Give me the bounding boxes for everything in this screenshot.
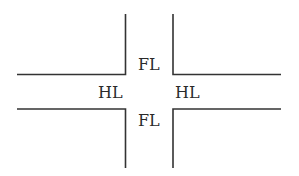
- top-right-curb: [173, 14, 281, 75]
- bottom-right-curb: [173, 109, 281, 168]
- intersection-diagram: FL HL HL FL: [0, 0, 299, 176]
- label-hl-right: HL: [175, 83, 200, 102]
- top-left-curb: [17, 14, 126, 75]
- label-fl-bottom: FL: [138, 111, 160, 130]
- label-fl-top: FL: [138, 55, 160, 74]
- label-hl-left: HL: [98, 83, 123, 102]
- bottom-left-curb: [17, 109, 126, 168]
